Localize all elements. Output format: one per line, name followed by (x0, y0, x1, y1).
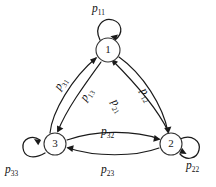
edge-p31-arrowhead (90, 57, 97, 64)
markov-chain-diagram: 1 3 2 p11 p33 p22 p31 p13 p21 p12 p32 p2… (0, 0, 216, 187)
p23-subscript: 23 (107, 169, 114, 178)
p32-subscript: 32 (107, 131, 114, 140)
diagram-canvas (0, 0, 216, 187)
self-loop-p33-label: p33 (5, 164, 18, 178)
edge-p32-label: p32 (101, 126, 114, 140)
p33-subscript: 33 (11, 169, 18, 178)
state-node-1-label: 1 (96, 44, 120, 55)
self-loop-p11-label: p11 (92, 3, 105, 17)
self-loop-p33-path (23, 137, 45, 156)
edge-p23-arrowhead (66, 145, 73, 152)
self-loop-p11 (98, 19, 121, 40)
edge-p23 (66, 145, 159, 155)
state-node-3-label: 3 (43, 138, 67, 149)
p11-subscript: 11 (98, 8, 105, 17)
self-loop-p22-label: p22 (186, 160, 199, 174)
edge-p23-label: p23 (101, 164, 114, 178)
p22-subscript: 22 (192, 165, 199, 174)
self-loop-p33 (23, 137, 45, 156)
self-loop-p11-path (98, 19, 121, 40)
state-node-2-label: 2 (159, 138, 183, 149)
edge-p23-path (68, 148, 159, 155)
